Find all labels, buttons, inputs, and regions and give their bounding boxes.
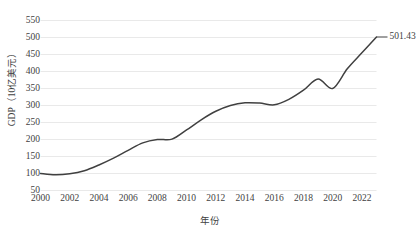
last-point-data-label: 501.43 xyxy=(390,32,416,42)
gridlines xyxy=(41,21,377,191)
gdp-line-chart: GDP（10亿美元） 年份 50100150200250300350400450… xyxy=(0,0,419,234)
plot-area xyxy=(0,0,419,234)
